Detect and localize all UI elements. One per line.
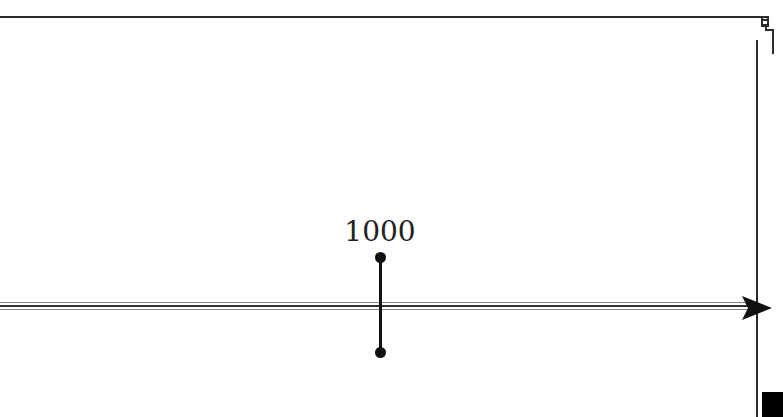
- timeline-axis: [0, 302, 750, 314]
- frame-top-border: [0, 16, 743, 18]
- event-label: 1000: [340, 215, 420, 248]
- corner-block: [762, 392, 783, 417]
- event-stem: [379, 258, 382, 353]
- event-marker-bottom-dot: [375, 347, 386, 358]
- frame-corner-ornament-icon: [740, 14, 780, 54]
- arrow-right-icon: [742, 296, 772, 320]
- frame-right-border: [756, 40, 758, 417]
